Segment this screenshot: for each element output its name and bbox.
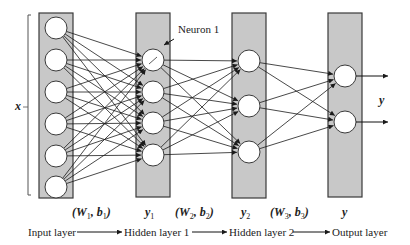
connection-edge (164, 152, 237, 154)
neuron-hidden2-1 (238, 50, 260, 72)
parameter-label-6: y (340, 205, 348, 219)
connection-edge (259, 80, 333, 103)
flow-input-layer: Input layer (28, 226, 76, 238)
layer-box-input (39, 13, 73, 198)
neuron-hidden1-3 (142, 112, 164, 134)
parameter-label-4: y2 (239, 205, 250, 221)
connection-edge (66, 31, 141, 56)
parameter-label-2: y1 (143, 205, 154, 221)
input-bracket: x (14, 15, 31, 195)
neuron-input-3 (45, 81, 67, 103)
neuron-output-1 (334, 65, 356, 87)
layer-box-hidden1 (136, 13, 170, 197)
neural-network-diagram: x Neuron 1 y (W1, b1)y1(W2, b2)y2(W3, b3… (0, 0, 410, 245)
parameter-label-5: (W3, b3) (270, 205, 309, 221)
connection-edge (162, 98, 238, 146)
neuron-output-2 (334, 111, 356, 133)
layer-box-output (328, 13, 362, 197)
connection-edge (161, 68, 240, 144)
output-vector-label: y (377, 93, 385, 107)
flow-hidden-layer-1: Hidden layer 1 (124, 226, 189, 238)
neuron-input-4 (45, 113, 67, 135)
neuron-hidden1-4 (142, 144, 164, 166)
layer-flow: Input layer Hidden layer 1 Hidden layer … (28, 226, 388, 238)
connection-edge (258, 83, 336, 145)
parameter-label-3: (W2, b2) (175, 205, 214, 221)
connection-edge (64, 36, 145, 115)
neuron-input-6 (45, 176, 67, 198)
connection-edge (161, 69, 241, 147)
neuron-input-2 (45, 49, 67, 71)
flow-hidden-layer-2: Hidden layer 2 (229, 226, 294, 238)
neuron-1-label: Neuron 1 (178, 23, 219, 35)
connection-edge (163, 65, 237, 89)
connection-edge (260, 63, 333, 74)
connections (63, 31, 336, 183)
neuron-input-1 (45, 17, 67, 39)
connection-edge (164, 126, 238, 148)
connection-edge (66, 159, 141, 184)
parameter-label-1: (W1, b1) (72, 205, 111, 221)
flow-output-layer: Output layer (332, 226, 388, 238)
neuron-hidden2-3 (238, 141, 260, 163)
neurons (45, 17, 356, 198)
diagram-canvas: x Neuron 1 y (W1, b1)y1(W2, b2)y2(W3, b3… (0, 0, 410, 245)
neuron-input-5 (45, 145, 67, 167)
connection-edge (164, 60, 237, 61)
neuron-hidden2-2 (238, 95, 260, 117)
parameter-labels: (W1, b1)y1(W2, b2)y2(W3, b3)y (72, 205, 348, 221)
connection-edge (259, 126, 333, 149)
connection-edge (164, 108, 237, 121)
neuron-hidden1-2 (142, 81, 164, 103)
input-vector-label: x (14, 99, 21, 113)
connection-edge (64, 100, 145, 179)
